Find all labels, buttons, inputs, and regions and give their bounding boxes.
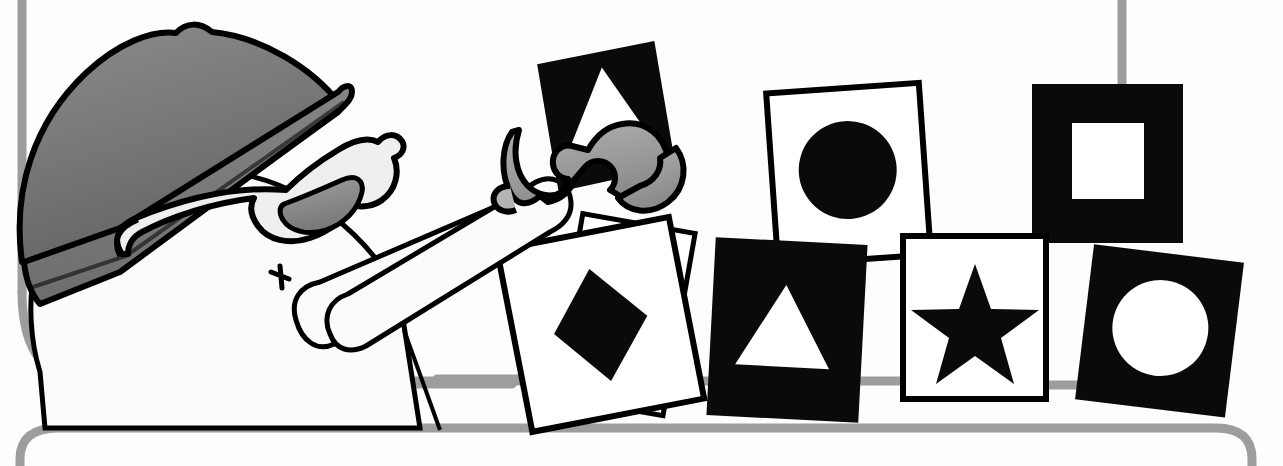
card-triangle-white-on-black	[706, 237, 867, 423]
square-shape	[1072, 123, 1144, 199]
card-star	[903, 236, 1046, 399]
card-square	[1032, 84, 1183, 243]
illustration-canvas: Cartoon bird character in beanie and sun…	[0, 0, 1283, 466]
frame-bottom-panel	[20, 428, 1252, 466]
card-diamond	[497, 217, 704, 432]
scene-svg	[0, 0, 1283, 466]
card-circle-white-on-black	[1075, 244, 1244, 417]
